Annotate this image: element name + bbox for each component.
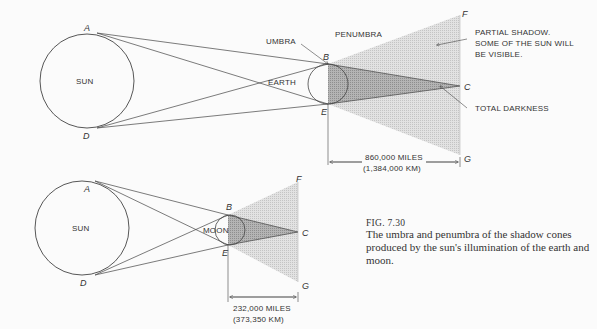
point-c-bottom: C	[302, 228, 309, 238]
moon-distance-miles: 232,000 MILES	[233, 304, 291, 313]
point-a-bottom: A	[83, 184, 90, 194]
total-darkness-label: TOTAL DARKNESS	[475, 104, 549, 113]
point-b-top: B	[323, 52, 329, 62]
moon-shadow-diagram: SUN MOON 232,000 MILES (373,350 KM) A D …	[35, 174, 309, 324]
earth-shadow-diagram: SUN EARTH UMBRA PENUMBRA PARTIAL SHADOW.…	[40, 9, 574, 174]
penumbra-label: PENUMBRA	[335, 30, 382, 39]
moon-label: MOON	[203, 226, 229, 235]
figure-number: FIG. 7.30	[366, 218, 596, 228]
earth-distance-miles: 860,000 MILES	[365, 153, 423, 162]
partial-shadow-line3: BE VISIBLE.	[475, 50, 523, 59]
point-d-top: D	[83, 131, 90, 141]
point-f-top: F	[462, 9, 468, 19]
figure-canvas: SUN EARTH UMBRA PENUMBRA PARTIAL SHADOW.…	[0, 0, 597, 329]
point-d-bottom: D	[80, 278, 87, 288]
point-a-top: A	[83, 23, 90, 33]
point-e-top: E	[321, 107, 328, 117]
moon-distance-km: (373,350 KM)	[233, 315, 284, 324]
partial-shadow-line1: PARTIAL SHADOW.	[475, 28, 550, 37]
earth-distance-km: (1,384,000 KM)	[363, 164, 421, 173]
sun-label-top: SUN	[76, 77, 94, 86]
figure-caption: FIG. 7.30 The umbra and penumbra of the …	[366, 218, 596, 267]
point-e-bottom: E	[222, 248, 229, 258]
umbra-penumbra-diagram: SUN EARTH UMBRA PENUMBRA PARTIAL SHADOW.…	[0, 0, 597, 329]
point-g-bottom: G	[302, 281, 309, 291]
partial-shadow-line2: SOME OF THE SUN WILL	[475, 39, 574, 48]
umbra-label: UMBRA	[266, 37, 296, 46]
point-b-bottom: B	[226, 202, 232, 212]
earth-label: EARTH	[268, 78, 296, 87]
point-c-top: C	[464, 82, 471, 92]
figure-caption-text: The umbra and penumbra of the shadow con…	[366, 228, 596, 267]
sun-label-bottom: SUN	[72, 224, 90, 233]
point-g-top: G	[464, 154, 471, 164]
point-f-bottom: F	[296, 174, 302, 184]
